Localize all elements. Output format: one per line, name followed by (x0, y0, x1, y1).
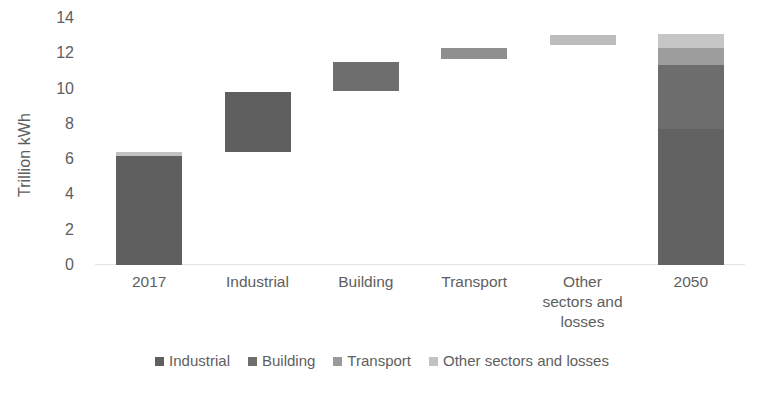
legend-swatch-icon (155, 357, 164, 366)
bar-segment (441, 48, 507, 59)
y-axis-tick-label: 0 (44, 256, 74, 274)
legend-item[interactable]: Transport (333, 352, 411, 369)
plot-area (95, 18, 745, 265)
x-axis-tick-label: 2050 (637, 272, 745, 292)
legend-item[interactable]: Building (248, 352, 315, 369)
legend-swatch-icon (429, 357, 438, 366)
x-axis-tick-label: Building (312, 272, 420, 292)
y-axis-tick-label: 4 (44, 185, 74, 203)
x-axis-tick-label-line: Industrial (203, 272, 311, 292)
legend-label: Building (262, 352, 315, 369)
x-axis-tick-label-line: 2050 (637, 272, 745, 292)
chart-legend: IndustrialBuildingTransportOther sectors… (0, 352, 764, 369)
bar-segment (550, 35, 616, 46)
bar-segment (658, 34, 724, 48)
x-axis-tick-label: Othersectors andlosses (528, 272, 636, 332)
bar-segment (225, 92, 291, 152)
bar-segment (658, 129, 724, 265)
bar-segment (658, 65, 724, 129)
bar-column (333, 18, 399, 265)
x-axis-tick-label-line: 2017 (95, 272, 203, 292)
x-axis-tick-label-line: losses (528, 312, 636, 332)
y-axis-tick-label: 12 (44, 44, 74, 62)
y-axis-tick-label: 14 (44, 9, 74, 27)
x-axis-tick-label: Transport (420, 272, 528, 292)
bar-segment (116, 152, 182, 156)
y-axis-title: Trillion kWh (16, 55, 40, 255)
y-axis-tick-label: 6 (44, 150, 74, 168)
y-axis-tick-label: 8 (44, 115, 74, 133)
bar-column (658, 18, 724, 265)
bar-column (550, 18, 616, 265)
x-axis-tick-labels: 2017IndustrialBuildingTransportOthersect… (95, 272, 745, 334)
legend-item[interactable]: Industrial (155, 352, 230, 369)
bar-segment (116, 156, 182, 265)
y-axis-tick-label: 2 (44, 221, 74, 239)
bar-segment (658, 48, 724, 65)
x-axis-tick-label-line: Transport (420, 272, 528, 292)
y-axis-title-container: Trillion kWh (0, 0, 30, 280)
bar-column (441, 18, 507, 265)
x-axis-tick-label-line: Building (312, 272, 420, 292)
legend-swatch-icon (248, 357, 257, 366)
legend-label: Industrial (169, 352, 230, 369)
legend-swatch-icon (333, 357, 342, 366)
x-axis-line (95, 264, 745, 265)
x-axis-tick-label: 2017 (95, 272, 203, 292)
bar-column (225, 18, 291, 265)
legend-label: Transport (347, 352, 411, 369)
bar-segment (333, 62, 399, 91)
legend-label: Other sectors and losses (443, 352, 609, 369)
legend-item[interactable]: Other sectors and losses (429, 352, 609, 369)
y-axis-tick-label: 10 (44, 80, 74, 98)
bar-column (116, 18, 182, 265)
x-axis-tick-label-line: Other (528, 272, 636, 292)
x-axis-tick-label: Industrial (203, 272, 311, 292)
x-axis-tick-label-line: sectors and (528, 292, 636, 312)
waterfall-chart: Trillion kWh 14121086420 2017IndustrialB… (0, 0, 764, 399)
